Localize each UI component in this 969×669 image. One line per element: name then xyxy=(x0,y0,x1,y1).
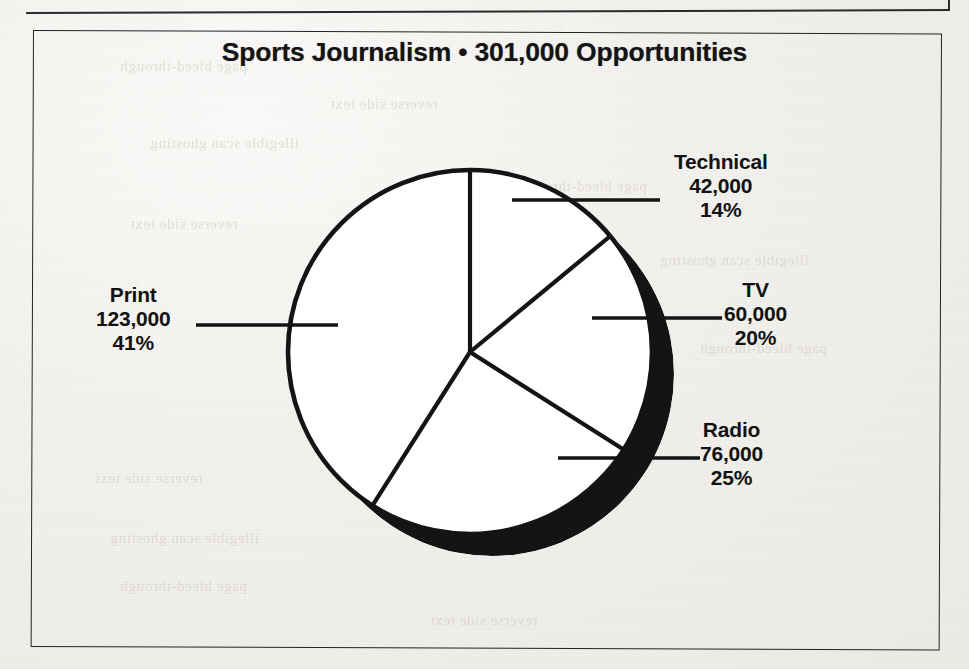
slice-label-tv-percent: 20% xyxy=(724,326,787,350)
slice-label-tv-name: TV xyxy=(724,278,787,302)
slice-label-radio: Radio 76,000 25% xyxy=(700,418,763,490)
slice-label-technical: Technical 42,000 14% xyxy=(674,150,768,222)
slice-label-technical-percent: 14% xyxy=(674,198,768,222)
slice-label-radio-value: 76,000 xyxy=(700,442,763,466)
slice-label-tv-value: 60,000 xyxy=(724,302,787,326)
slice-label-print-value: 123,000 xyxy=(96,307,171,331)
slice-label-technical-value: 42,000 xyxy=(674,174,768,198)
slice-label-technical-name: Technical xyxy=(674,150,768,174)
chart-title: Sports Journalism • 301,000 Opportunitie… xyxy=(0,37,969,68)
slice-label-radio-name: Radio xyxy=(700,418,763,442)
slice-label-print: Print 123,000 41% xyxy=(96,283,171,355)
preceding-block-border-right xyxy=(948,0,950,9)
slice-label-print-name: Print xyxy=(96,283,171,307)
slice-label-tv: TV 60,000 20% xyxy=(724,278,787,350)
slice-label-radio-percent: 25% xyxy=(700,466,763,490)
slice-label-print-percent: 41% xyxy=(96,331,171,355)
